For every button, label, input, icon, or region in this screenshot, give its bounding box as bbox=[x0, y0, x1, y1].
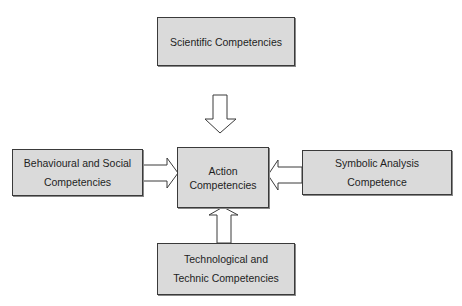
arrow-down-icon bbox=[205, 95, 236, 133]
diagram-canvas: Scientific Competencies Behavioural and … bbox=[0, 0, 462, 306]
node-label-line-1: Technological and bbox=[184, 250, 268, 269]
node-label-line-2: Competencies bbox=[44, 173, 111, 192]
node-symbolic-analysis-competence: Symbolic Analysis Competence bbox=[302, 150, 452, 195]
node-technological-technic-competencies: Technological and Technic Competencies bbox=[157, 243, 295, 295]
arrow-right-icon bbox=[143, 158, 178, 188]
node-label-line-2: Competencies bbox=[189, 178, 256, 192]
node-label-line-2: Competence bbox=[347, 173, 407, 192]
node-label-line-2: Technic Competencies bbox=[173, 269, 279, 288]
node-label-line-1: Symbolic Analysis bbox=[335, 154, 419, 173]
node-action-competencies: Action Competencies bbox=[177, 147, 269, 208]
node-label-line-1: Behavioural and Social bbox=[24, 154, 131, 173]
node-label: Scientific Competencies bbox=[170, 36, 282, 48]
arrow-left-icon bbox=[268, 160, 302, 190]
node-scientific-competencies: Scientific Competencies bbox=[157, 17, 295, 66]
node-behavioural-social-competencies: Behavioural and Social Competencies bbox=[12, 149, 143, 196]
arrow-up-icon bbox=[209, 207, 238, 243]
node-label-line-1: Action bbox=[208, 164, 237, 178]
